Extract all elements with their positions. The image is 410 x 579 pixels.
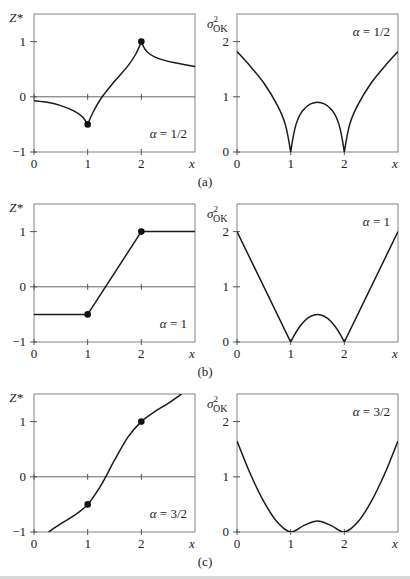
chart-panel-0: −101012xZ*α = 1/2 bbox=[9, 10, 195, 171]
y-tick-label: 1 bbox=[20, 224, 27, 239]
data-point-marker bbox=[84, 311, 91, 318]
data-curve bbox=[237, 232, 398, 342]
x-tick-label: 0 bbox=[234, 536, 241, 551]
data-point-marker bbox=[138, 418, 145, 425]
chart-panel-3: 012012xσ2OKα = 1 bbox=[207, 204, 398, 361]
y-tick-label: 0 bbox=[223, 144, 230, 159]
x-tick-label: 1 bbox=[287, 536, 294, 551]
chart-panel-2: −101012xZ*α = 1 bbox=[9, 200, 195, 361]
data-point-marker bbox=[84, 501, 91, 508]
x-tick-label: 0 bbox=[31, 156, 38, 171]
figure: −101012xZ*α = 1/2012012xσ2OKα = 1/2−1010… bbox=[0, 0, 410, 579]
data-curve bbox=[34, 232, 195, 315]
y-tick-label: 0 bbox=[223, 334, 230, 349]
x-tick-label: 0 bbox=[234, 346, 241, 361]
x-tick-label: 2 bbox=[138, 536, 145, 551]
alpha-annotation: α = 1/2 bbox=[150, 126, 187, 141]
y-tick-label: 2 bbox=[223, 414, 230, 429]
x-axis-label: x bbox=[188, 536, 195, 551]
x-tick-label: 1 bbox=[84, 346, 91, 361]
y-axis-label: σ2OK bbox=[207, 394, 228, 414]
y-tick-label: 2 bbox=[223, 34, 230, 49]
panel-caption: (b) bbox=[197, 364, 212, 379]
chart-panel-5: 012012xσ2OKα = 3/2 bbox=[207, 394, 398, 551]
y-axis-label: Z* bbox=[9, 390, 23, 405]
data-curve bbox=[237, 52, 398, 152]
y-tick-label: 1 bbox=[223, 89, 230, 104]
x-tick-label: 0 bbox=[31, 346, 38, 361]
panel-caption: (a) bbox=[198, 174, 212, 189]
alpha-annotation: α = 1/2 bbox=[353, 24, 390, 39]
x-axis-label: x bbox=[188, 156, 195, 171]
alpha-annotation: α = 3/2 bbox=[353, 404, 390, 419]
x-axis-label: x bbox=[391, 156, 398, 171]
alpha-annotation: α = 3/2 bbox=[150, 506, 187, 521]
y-tick-label: 1 bbox=[20, 414, 27, 429]
x-tick-label: 2 bbox=[138, 346, 145, 361]
x-tick-label: 1 bbox=[287, 346, 294, 361]
y-axis-label: σ2OK bbox=[207, 14, 228, 34]
alpha-annotation: α = 1 bbox=[160, 316, 187, 331]
x-axis-label: x bbox=[188, 346, 195, 361]
data-point-marker bbox=[84, 121, 91, 128]
chart-panel-1: 012012xσ2OKα = 1/2 bbox=[207, 14, 398, 171]
y-tick-label: 0 bbox=[20, 279, 27, 294]
y-tick-label: 1 bbox=[223, 279, 230, 294]
y-tick-label: 0 bbox=[20, 469, 27, 484]
x-tick-label: 2 bbox=[341, 156, 348, 171]
alpha-annotation: α = 1 bbox=[363, 214, 390, 229]
data-curve bbox=[237, 441, 398, 532]
y-tick-label: 0 bbox=[223, 524, 230, 539]
x-tick-label: 0 bbox=[31, 536, 38, 551]
y-tick-label: −1 bbox=[12, 334, 26, 349]
chart-panel-4: −101012xZ*α = 3/2 bbox=[9, 390, 195, 551]
x-tick-label: 2 bbox=[341, 346, 348, 361]
x-axis-label: x bbox=[391, 346, 398, 361]
y-tick-label: 1 bbox=[223, 469, 230, 484]
x-tick-label: 1 bbox=[84, 156, 91, 171]
panel-caption: (c) bbox=[198, 554, 212, 569]
y-tick-label: 1 bbox=[20, 34, 27, 49]
y-axis-label: Z* bbox=[9, 10, 23, 25]
x-tick-label: 2 bbox=[138, 156, 145, 171]
x-axis-label: x bbox=[391, 536, 398, 551]
y-axis-label: σ2OK bbox=[207, 204, 228, 224]
x-tick-label: 2 bbox=[341, 536, 348, 551]
y-tick-label: −1 bbox=[12, 524, 26, 539]
data-point-marker bbox=[138, 228, 145, 235]
y-axis-label: Z* bbox=[9, 200, 23, 215]
x-tick-label: 1 bbox=[84, 536, 91, 551]
y-tick-label: 0 bbox=[20, 89, 27, 104]
y-tick-label: 2 bbox=[223, 224, 230, 239]
y-tick-label: −1 bbox=[12, 144, 26, 159]
data-curve bbox=[34, 42, 195, 125]
x-tick-label: 0 bbox=[234, 156, 241, 171]
data-point-marker bbox=[138, 38, 145, 45]
x-tick-label: 1 bbox=[287, 156, 294, 171]
